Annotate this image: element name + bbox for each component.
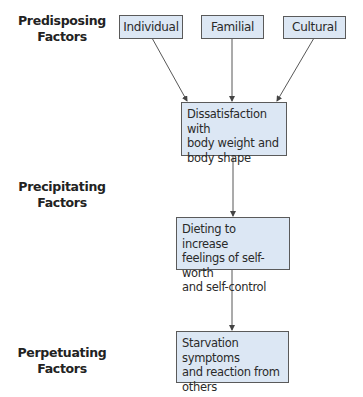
arrow-cultural-to-dissatisfaction <box>277 38 314 101</box>
node-line: feelings of self-worth <box>182 251 285 280</box>
node-line: Starvation symptoms <box>182 336 284 365</box>
node-dieting: Dieting to increase feelings of self-wor… <box>176 217 290 270</box>
node-label: Cultural <box>292 20 337 35</box>
node-line: others <box>182 380 284 395</box>
node-individual: Individual <box>119 15 183 39</box>
node-line: body weight and <box>187 136 282 151</box>
node-line: Dieting to increase <box>182 222 285 251</box>
node-starvation: Starvation symptoms and reaction from ot… <box>176 331 289 383</box>
node-label: Individual <box>123 20 178 35</box>
node-line: and self-control <box>182 280 285 295</box>
node-line: body shape <box>187 151 282 166</box>
node-line: Dissatisfaction with <box>187 107 282 136</box>
arrow-individual-to-dissatisfaction <box>152 38 187 101</box>
node-label: Familial <box>211 20 254 35</box>
node-cultural: Cultural <box>283 16 346 39</box>
node-dissatisfaction: Dissatisfaction with body weight and bod… <box>181 102 287 156</box>
node-line: and reaction from <box>182 365 284 380</box>
node-familial: Familial <box>201 15 264 39</box>
